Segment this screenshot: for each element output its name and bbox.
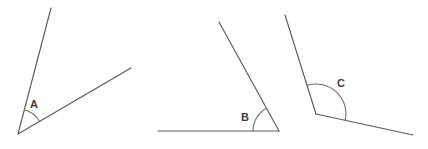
angles-canvas: A B C: [0, 0, 428, 149]
angle-a-group: A: [18, 8, 131, 134]
angle-b-group: B: [158, 22, 279, 131]
angle-a-arc: [24, 110, 39, 122]
angle-c-group: C: [285, 15, 413, 135]
angle-a-label: A: [30, 98, 38, 110]
angles-figure: A B C: [0, 0, 428, 149]
ray-c-lower: [316, 114, 413, 135]
angle-b-label: B: [241, 111, 249, 123]
ray-c-upper: [285, 15, 316, 114]
angle-b-arc: [253, 108, 266, 131]
angle-c-label: C: [337, 77, 345, 89]
